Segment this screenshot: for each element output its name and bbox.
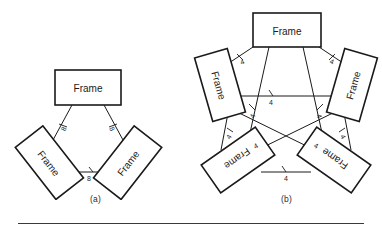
- panel-b: Frame Frame Frame Frame Frame: [191, 0, 382, 233]
- caption-a: (a): [0, 194, 191, 204]
- edge-label-lower-left-to-lower-right: 8: [87, 175, 91, 182]
- frame-top: Frame: [253, 13, 321, 47]
- edge-top-to-lower-left: [53, 105, 72, 140]
- frame-top: Frame: [55, 70, 121, 105]
- tick-left-lower: [227, 128, 233, 132]
- tick-bottom-edge: [89, 167, 93, 172]
- frame-lower-right: Frame: [93, 126, 161, 200]
- edge-label-top-to-upper-left: 4: [239, 58, 245, 66]
- tick-mid-right: [317, 104, 323, 110]
- bottom-divider: [18, 223, 364, 224]
- frame-lower-left: Frame: [201, 127, 275, 193]
- figure-root: Frame Frame Frame 8 8 8 (a): [0, 0, 382, 233]
- frame-lower-left: Frame: [15, 126, 83, 200]
- frame-upper-left: Frame: [195, 49, 246, 122]
- caption-b: (b): [191, 194, 382, 204]
- edge-label-upper-left-to-lower-left: 4: [225, 133, 233, 140]
- frame-lower-right: Frame: [297, 127, 371, 193]
- panel-a: Frame Frame Frame 8 8 8 (a): [0, 0, 191, 233]
- tick-mid-left: [249, 104, 255, 110]
- tick-right-lower: [339, 128, 345, 132]
- edge-label-top-to-lower-left: 4: [249, 113, 257, 119]
- panel-b-diagram: Frame Frame Frame Frame Frame: [191, 0, 382, 200]
- edge-top-to-lower-right: [104, 105, 123, 140]
- edge-label-lower-left-to-lower-right: 4: [284, 175, 288, 182]
- edge-label-upper-right-to-lower-right: 4: [339, 133, 347, 140]
- tick-bottom: [282, 166, 286, 172]
- frame-top-label: Frame: [273, 26, 302, 37]
- edge-label-top-to-upper-right: 4: [329, 58, 335, 66]
- tick-horizontal: [269, 90, 273, 96]
- frame-top-label: Frame: [74, 83, 103, 94]
- panel-a-diagram: Frame Frame Frame 8 8 8: [0, 0, 191, 200]
- edge-label-upper-left-to-upper-right: 4: [269, 99, 273, 106]
